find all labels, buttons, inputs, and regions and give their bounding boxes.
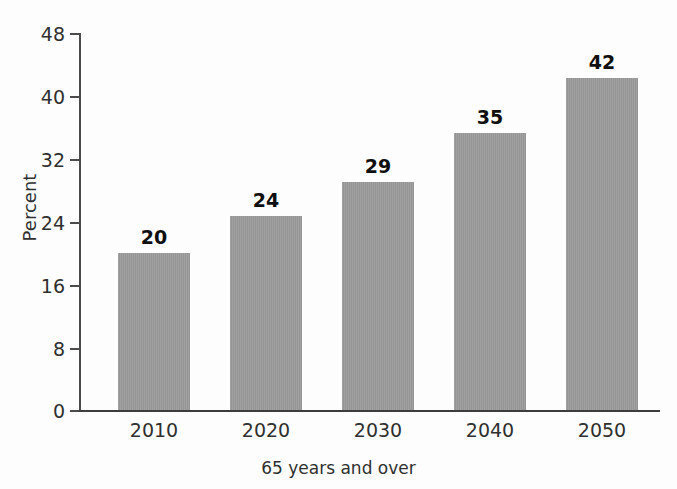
y-axis-title: Percent (19, 158, 40, 258)
x-axis-line (79, 410, 660, 412)
x-axis-label-2030: 2030 (342, 421, 414, 440)
x-axis-label-2010: 2010 (118, 421, 190, 440)
y-axis-tick-24 (70, 222, 79, 224)
x-axis-label-2040: 2040 (454, 421, 526, 440)
y-axis-label-8: 8 (5, 340, 65, 359)
bar-value-2040: 35 (454, 108, 526, 127)
y-axis-tick-40 (70, 96, 79, 98)
bar-2020 (230, 216, 302, 410)
bar-2050 (566, 78, 638, 410)
bar-value-2010: 20 (118, 228, 190, 247)
bar-2040 (454, 133, 526, 410)
bar-value-2050: 42 (566, 53, 638, 72)
bar-value-2020: 24 (230, 191, 302, 210)
x-axis-title: 65 years and over (0, 458, 677, 478)
y-axis-label-40: 40 (5, 88, 65, 107)
y-axis-tick-0 (70, 410, 79, 412)
y-axis-label-48: 48 (5, 25, 65, 44)
y-axis-tick-32 (70, 159, 79, 161)
bar-value-2030: 29 (342, 157, 414, 176)
bar-2030 (342, 182, 414, 410)
bar-2010 (118, 253, 190, 410)
y-axis-label-16: 16 (5, 277, 65, 296)
x-axis-label-2050: 2050 (566, 421, 638, 440)
x-axis-label-2020: 2020 (230, 421, 302, 440)
y-axis-line (79, 33, 81, 411)
y-axis-tick-16 (70, 285, 79, 287)
y-axis-label-0: 0 (5, 402, 65, 421)
bar-chart: 48 40 32 24 16 8 0 Percent 20 24 29 35 4… (0, 0, 677, 489)
y-axis-tick-8 (70, 348, 79, 350)
y-axis-tick-48 (70, 33, 79, 35)
